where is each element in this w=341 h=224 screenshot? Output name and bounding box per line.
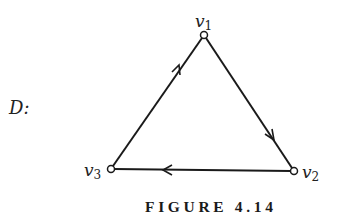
node-label-v3: v3 <box>84 160 101 182</box>
edge-v1-v2 <box>206 38 292 168</box>
edge-v3-v1 <box>113 38 202 166</box>
directed-graph: v1 v2 v3 D: FIGURE 4.14 <box>0 0 341 224</box>
graph-label: D: <box>8 97 30 118</box>
figure-canvas: v1 v2 v3 D: FIGURE 4.14 <box>0 0 341 224</box>
edge-v2-v3 <box>114 169 291 171</box>
node-v3 <box>108 166 115 173</box>
arrowheads <box>163 65 274 175</box>
node-label-v1: v1 <box>195 11 212 33</box>
nodes <box>108 32 298 175</box>
arrow-icon <box>172 65 180 75</box>
edges <box>113 38 292 171</box>
node-v2 <box>291 168 298 175</box>
figure-caption: FIGURE 4.14 <box>145 198 273 215</box>
node-label-v2: v2 <box>302 162 319 184</box>
